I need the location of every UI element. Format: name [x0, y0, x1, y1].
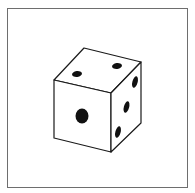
die-front-face — [54, 80, 111, 152]
figure-canvas — [0, 0, 195, 193]
die-icon — [0, 0, 195, 193]
pip-front-1 — [76, 109, 89, 124]
